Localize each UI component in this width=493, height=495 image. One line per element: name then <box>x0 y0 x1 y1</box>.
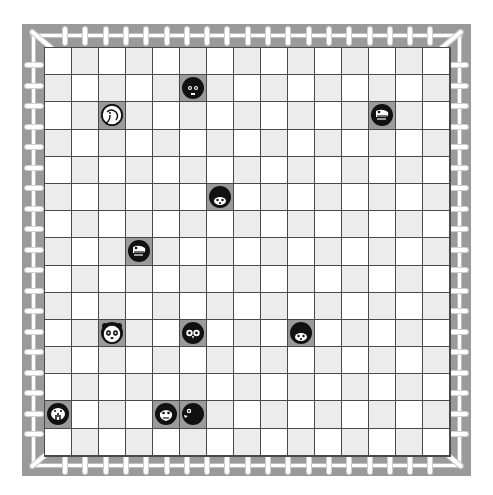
board-cell[interactable] <box>261 374 288 401</box>
board-cell[interactable] <box>288 429 315 456</box>
board-cell[interactable] <box>342 130 369 157</box>
board-cell[interactable] <box>315 347 342 374</box>
eagle-icon[interactable] <box>128 240 150 262</box>
board-cell[interactable] <box>72 374 99 401</box>
board-cell[interactable] <box>153 429 180 456</box>
board-cell[interactable] <box>99 184 126 211</box>
board-cell[interactable] <box>261 130 288 157</box>
board-cell[interactable] <box>315 130 342 157</box>
panda-icon[interactable] <box>101 322 123 344</box>
board-cell[interactable] <box>342 238 369 265</box>
board-cell[interactable] <box>45 347 72 374</box>
board-cell[interactable] <box>369 429 396 456</box>
board-cell[interactable] <box>288 266 315 293</box>
board-cell[interactable] <box>261 347 288 374</box>
board-cell[interactable] <box>99 320 126 347</box>
board-cell[interactable] <box>396 320 423 347</box>
board-cell[interactable] <box>423 130 450 157</box>
board-cell[interactable] <box>207 401 234 428</box>
board-cell[interactable] <box>207 429 234 456</box>
monkey-icon[interactable] <box>155 403 177 425</box>
board-cell[interactable] <box>207 320 234 347</box>
board-cell[interactable] <box>99 347 126 374</box>
board-cell[interactable] <box>180 293 207 320</box>
board-cell[interactable] <box>369 266 396 293</box>
board-cell[interactable] <box>288 211 315 238</box>
board-cell[interactable] <box>342 211 369 238</box>
board-cell[interactable] <box>423 157 450 184</box>
board-cell[interactable] <box>234 320 261 347</box>
board-cell[interactable] <box>342 184 369 211</box>
board-cell[interactable] <box>153 293 180 320</box>
board-cell[interactable] <box>45 238 72 265</box>
board-cell[interactable] <box>207 293 234 320</box>
board-cell[interactable] <box>288 102 315 129</box>
board-cell[interactable] <box>72 401 99 428</box>
board-cell[interactable] <box>315 184 342 211</box>
board-cell[interactable] <box>423 293 450 320</box>
board-cell[interactable] <box>126 238 153 265</box>
board-cell[interactable] <box>261 75 288 102</box>
board-cell[interactable] <box>288 347 315 374</box>
board-cell[interactable] <box>369 102 396 129</box>
board-cell[interactable] <box>342 347 369 374</box>
board-cell[interactable] <box>99 293 126 320</box>
board-cell[interactable] <box>180 157 207 184</box>
board-cell[interactable] <box>45 320 72 347</box>
board-cell[interactable] <box>180 320 207 347</box>
board-cell[interactable] <box>342 266 369 293</box>
board-cell[interactable] <box>315 211 342 238</box>
board-cell[interactable] <box>261 238 288 265</box>
board-cell[interactable] <box>207 211 234 238</box>
board-cell[interactable] <box>153 374 180 401</box>
board-cell[interactable] <box>261 184 288 211</box>
board-cell[interactable] <box>45 75 72 102</box>
board-cell[interactable] <box>45 374 72 401</box>
board-cell[interactable] <box>423 48 450 75</box>
board-cell[interactable] <box>396 211 423 238</box>
board-cell[interactable] <box>72 347 99 374</box>
board-cell[interactable] <box>288 401 315 428</box>
board-cell[interactable] <box>342 48 369 75</box>
board-cell[interactable] <box>342 157 369 184</box>
board-cell[interactable] <box>315 75 342 102</box>
board-cell[interactable] <box>45 293 72 320</box>
board-cell[interactable] <box>396 266 423 293</box>
board-cell[interactable] <box>396 401 423 428</box>
board-cell[interactable] <box>126 184 153 211</box>
board-cell[interactable] <box>369 374 396 401</box>
board-cell[interactable] <box>234 293 261 320</box>
board-cell[interactable] <box>369 48 396 75</box>
board-cell[interactable] <box>423 211 450 238</box>
board-cell[interactable] <box>180 266 207 293</box>
board-cell[interactable] <box>126 75 153 102</box>
board-cell[interactable] <box>45 266 72 293</box>
board-cell[interactable] <box>126 48 153 75</box>
board-cell[interactable] <box>369 238 396 265</box>
board-cell[interactable] <box>99 429 126 456</box>
board-cell[interactable] <box>180 211 207 238</box>
board-cell[interactable] <box>207 102 234 129</box>
board-cell[interactable] <box>261 429 288 456</box>
board-cell[interactable] <box>369 320 396 347</box>
board-cell[interactable] <box>153 238 180 265</box>
board-cell[interactable] <box>315 429 342 456</box>
board-cell[interactable] <box>234 266 261 293</box>
board-cell[interactable] <box>423 238 450 265</box>
board-cell[interactable] <box>207 157 234 184</box>
board-cell[interactable] <box>288 238 315 265</box>
walrus-icon[interactable] <box>47 403 69 425</box>
board-cell[interactable] <box>126 347 153 374</box>
board-cell[interactable] <box>153 184 180 211</box>
board-cell[interactable] <box>72 211 99 238</box>
board-cell[interactable] <box>72 429 99 456</box>
board-cell[interactable] <box>99 102 126 129</box>
board-cell[interactable] <box>369 184 396 211</box>
board-cell[interactable] <box>180 347 207 374</box>
board-cell[interactable] <box>369 401 396 428</box>
board-cell[interactable] <box>369 75 396 102</box>
board-cell[interactable] <box>153 102 180 129</box>
board-cell[interactable] <box>234 429 261 456</box>
board-cell[interactable] <box>261 401 288 428</box>
board-cell[interactable] <box>99 157 126 184</box>
